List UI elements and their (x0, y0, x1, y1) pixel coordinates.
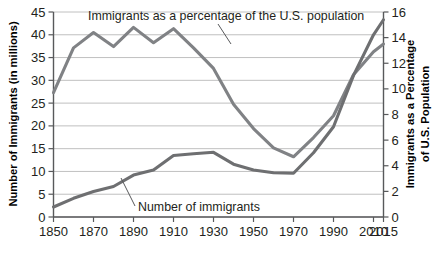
left-tick-label: 40 (31, 27, 45, 42)
left-tick-label: 20 (31, 118, 45, 133)
immigration-dual-axis-chart: 051015202530354045 0246810121416 1850187… (0, 0, 438, 255)
right-tick-label: 8 (392, 107, 399, 122)
right-tick-label: 16 (392, 5, 406, 20)
x-tick-label: 1910 (159, 224, 188, 239)
x-tick-label: 2015 (369, 224, 398, 239)
x-tick-label: 1930 (199, 224, 228, 239)
x-tick-label: 1990 (319, 224, 348, 239)
left-tick-label: 10 (31, 164, 45, 179)
right-tick-label: 4 (392, 158, 399, 173)
x-tick-label: 1950 (239, 224, 268, 239)
x-tick-label: 1970 (279, 224, 308, 239)
x-axis-tick-labels: 1850187018901910193019501970199020102015 (39, 224, 398, 239)
right-tick-label: 0 (392, 210, 399, 225)
right-tick-label: 2 (392, 184, 399, 199)
x-tick-label: 1870 (79, 224, 108, 239)
percentage-series-annotation-label: Immigrants as a percentage of the U.S. p… (88, 9, 364, 23)
x-tick-label: 1890 (119, 224, 148, 239)
right-axis-title-line1: Immigrants as a Percentage (404, 40, 416, 189)
left-axis-title: Number of Immigrants (in millions) (7, 21, 19, 207)
left-tick-label: 5 (38, 187, 45, 202)
left-tick-label: 30 (31, 73, 45, 88)
left-tick-label: 25 (31, 96, 45, 111)
x-tick-label: 1850 (39, 224, 68, 239)
left-tick-label: 15 (31, 141, 45, 156)
chart-canvas: 051015202530354045 0246810121416 1850187… (0, 0, 438, 255)
right-axis-title-line2: of U.S. Population (419, 66, 431, 162)
immigrants-series-annotation-label: Number of immigrants (138, 200, 260, 214)
right-tick-label: 6 (392, 133, 399, 148)
left-tick-label: 0 (38, 210, 45, 225)
left-tick-label: 45 (31, 5, 45, 20)
left-tick-label: 35 (31, 50, 45, 65)
